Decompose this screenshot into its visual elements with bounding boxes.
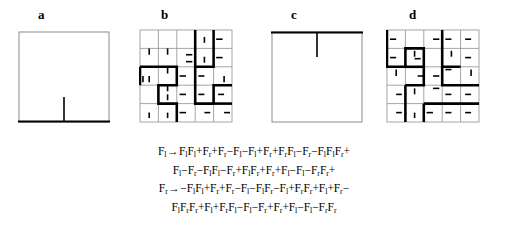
panel-b-ticks [143,37,230,118]
formula-line-2: Fl−Fr−FlFl−Fr+FlFr+Fr+Fl−Fl−FrFr+ [0,163,508,182]
panel-c-figure [271,31,363,123]
panel-label-b: b [161,8,168,21]
figure-root: a b [0,0,508,234]
formula-line-1: Fl→FlFl+Fr+Fr−Fl−Fl+Fr+FrFl−Fr−FlFlFr+ [0,144,508,163]
panel-a-figure [18,31,110,123]
panel-b-figure [139,29,233,123]
formula-line-3: Fr→−FlFl+Fr+Fr−Fl−FlFr−Fl+FrFr+Fl+Fr− [0,181,508,200]
formula-line-4: FlFrFr+Fl+FrFl−Fl−Fr+Fr+Fl−Fl−FrFr [0,200,508,219]
panel-label-a: a [38,8,45,21]
panel-label-c: c [291,8,297,21]
panel-d-figure [386,29,480,123]
lsystem-production-rules: Fl→FlFl+Fr+Fr−Fl−Fl+Fr+FrFl−Fr−FlFlFr+ F… [0,144,508,218]
panel-d-ticks [390,39,471,118]
panel-label-d: d [409,8,416,21]
